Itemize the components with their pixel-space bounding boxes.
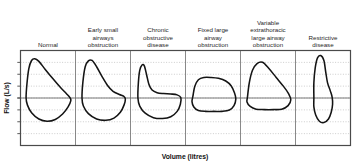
- panel-label-line: Early small: [88, 26, 118, 33]
- panel-label-line: Chronic: [147, 26, 168, 33]
- panel-label-line: obstructive: [143, 34, 173, 41]
- panel-label-line: airway: [204, 34, 223, 41]
- panel-label-line: Variable: [257, 19, 280, 26]
- panel-label-line: large airway: [251, 34, 285, 41]
- panel-label-line: Fixed large: [198, 26, 229, 33]
- panel-label-line: disease: [147, 41, 169, 48]
- panel-label-line: Restrictive: [309, 34, 338, 41]
- panel-label-line: obstruction: [198, 41, 229, 48]
- panel-label-line: disease: [312, 41, 334, 48]
- panel-label-line: Normal: [38, 41, 58, 48]
- x-axis-title: Volume (litres): [162, 153, 209, 161]
- flow-volume-loop-chart: NormalEarly smallairwaysobstructionChron…: [0, 0, 361, 163]
- panel-label-normal: Normal: [38, 41, 58, 48]
- panel-label-line: obstruction: [88, 41, 119, 48]
- panel-label-restrictive-disease: Restrictivedisease: [309, 34, 338, 48]
- panel-label-line: obstruction: [253, 41, 284, 48]
- panel-label-line: extrathoracic: [250, 26, 285, 33]
- y-axis-title: Flow (L/s): [3, 82, 11, 114]
- flow-volume-loop-figure: NormalEarly smallairwaysobstructionChron…: [0, 0, 361, 163]
- panel-label-line: airways: [93, 34, 114, 41]
